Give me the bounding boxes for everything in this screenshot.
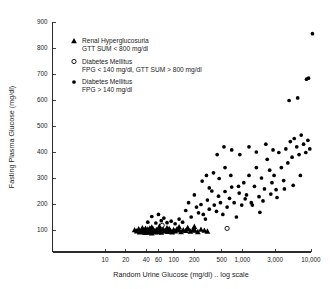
point-s3-82 <box>229 174 233 178</box>
point-s3-87 <box>205 174 209 178</box>
point-s3-72 <box>261 199 265 203</box>
point-s3-6 <box>162 216 166 220</box>
point-s3-10 <box>177 217 181 221</box>
point-s3-27 <box>217 194 221 198</box>
point-s3-16 <box>195 205 199 209</box>
x-tick-label-10000: 10,000 <box>301 256 321 263</box>
point-s3-70 <box>307 76 311 80</box>
y-tick-label-400: 400 <box>37 148 48 155</box>
point-s3-34 <box>232 201 236 205</box>
point-s3-40 <box>247 174 251 178</box>
legend-label-1-line1: Renal Hyperglucosuria <box>82 37 149 45</box>
point-s3-92 <box>247 145 251 149</box>
y-tick-label-900: 900 <box>37 18 48 25</box>
point-s3-80 <box>237 184 241 188</box>
point-s3-11 <box>181 220 185 224</box>
point-s3-66 <box>308 147 312 151</box>
point-s3-54 <box>282 179 286 183</box>
legend-label-2-line2: FPG < 140 mg/dl, GTT SUM > 800 mg/dl <box>82 66 202 74</box>
point-s3-58 <box>290 155 294 159</box>
point-s3-88 <box>215 153 219 157</box>
y-tick-label-500: 500 <box>37 122 48 129</box>
y-axis-tick-labels: 100200300400500600700800900 <box>37 18 48 233</box>
x-tick-label-100: 100 <box>168 256 179 263</box>
point-s3-79 <box>258 210 262 214</box>
x-tick-label-500: 500 <box>216 256 227 263</box>
point-s3-1 <box>146 220 150 224</box>
point-s3-48 <box>268 168 272 172</box>
point-s3-37 <box>240 203 244 207</box>
point-s3-15 <box>192 193 196 197</box>
point-s3-81 <box>243 197 247 201</box>
point-s3-63 <box>302 142 306 146</box>
x-tick-label-60: 60 <box>155 256 163 263</box>
point-s3-21 <box>204 217 208 221</box>
point-s3-73 <box>269 192 273 196</box>
point-s3-22 <box>206 198 210 202</box>
y-tick-label-300: 300 <box>37 174 48 181</box>
x-tick-label-10: 10 <box>101 256 109 263</box>
point-s1-56 <box>191 224 197 229</box>
point-s3-78 <box>251 203 255 207</box>
point-s3-18 <box>199 203 203 207</box>
point-s3-71 <box>311 32 315 36</box>
point-s3-50 <box>272 174 276 178</box>
point-s3-45 <box>260 176 264 180</box>
point-s3-36 <box>237 191 241 195</box>
point-s3-84 <box>217 177 221 181</box>
point-s3-86 <box>207 186 211 190</box>
point-s3-74 <box>275 196 279 200</box>
point-s1-55 <box>185 225 191 230</box>
legend-label-1-line2: GTT SUM < 800 mg/dl <box>82 45 149 53</box>
point-s3-43 <box>254 166 258 170</box>
point-s3-39 <box>245 193 249 197</box>
series-3-points <box>146 32 314 226</box>
legend-label-3-line2: FPG > 140 mg/dl <box>82 86 133 94</box>
y-axis-ticks <box>53 22 57 230</box>
point-s3-62 <box>299 133 303 137</box>
point-s3-7 <box>165 221 169 225</box>
point-s3-2 <box>150 215 154 219</box>
point-s3-8 <box>169 219 173 223</box>
point-s3-25 <box>212 203 216 207</box>
point-s2-2 <box>225 226 229 230</box>
point-s3-55 <box>284 147 288 151</box>
point-s3-91 <box>238 153 242 157</box>
point-s3-20 <box>201 213 205 217</box>
y-tick-label-600: 600 <box>37 96 48 103</box>
legend-marker-1 <box>71 38 77 43</box>
point-s3-13 <box>187 201 191 205</box>
point-s3-52 <box>277 151 281 155</box>
legend-marker-3 <box>72 80 76 84</box>
x-axis-tick-labels: 102040601002005001,0003,00010,000 <box>101 256 321 263</box>
point-s3-68 <box>296 96 300 100</box>
point-s3-90 <box>230 148 234 152</box>
point-s3-24 <box>210 189 214 193</box>
point-s3-94 <box>264 142 268 146</box>
point-s3-4 <box>157 213 161 217</box>
x-tick-label-1000: 1,000 <box>234 256 250 263</box>
point-s3-56 <box>286 161 290 165</box>
point-s3-53 <box>279 166 283 170</box>
point-s3-14 <box>189 215 193 219</box>
chart-canvas: 100200300400500600700800900 102040601002… <box>0 0 330 289</box>
point-s3-33 <box>230 185 234 189</box>
point-s3-3 <box>154 221 158 225</box>
point-s3-57 <box>288 140 292 144</box>
point-s3-19 <box>200 179 204 183</box>
point-s3-89 <box>222 145 226 149</box>
legend-marker-2 <box>72 59 76 63</box>
point-s3-77 <box>299 174 303 178</box>
point-s3-65 <box>306 138 310 142</box>
scatter-plot-figure: 100200300400500600700800900 102040601002… <box>0 0 330 289</box>
point-s3-67 <box>287 99 291 103</box>
point-s3-46 <box>263 187 267 191</box>
point-s3-61 <box>297 153 301 157</box>
point-s3-26 <box>215 209 219 213</box>
point-s3-51 <box>274 188 278 192</box>
point-s3-9 <box>173 222 177 226</box>
x-tick-label-40: 40 <box>143 256 151 263</box>
series-1-points <box>132 223 210 235</box>
point-s3-44 <box>257 195 261 199</box>
legend-label-2-line1: Diabetes Mellitus <box>82 58 133 65</box>
